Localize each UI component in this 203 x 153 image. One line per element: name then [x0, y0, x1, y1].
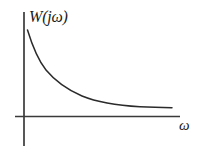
- figure-container: W(jω) ω: [0, 0, 203, 153]
- y-axis-label: W(jω): [29, 9, 68, 25]
- response-curve: [28, 30, 173, 108]
- x-axis-label: ω: [179, 118, 190, 133]
